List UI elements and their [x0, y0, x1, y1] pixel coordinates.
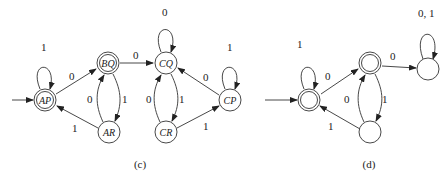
edge-cq-cr: [171, 74, 178, 121]
edge-ap-ap: [37, 67, 51, 89]
edge-s4-s4: [420, 34, 435, 59]
state-label-cp: CP: [224, 95, 237, 106]
edge-label-cp-cp: 1: [227, 41, 233, 53]
edge-label-ar-ap: 1: [72, 122, 78, 134]
edge-label-bq-cq: 0: [133, 49, 139, 61]
edge-label-cp-cq: 0: [203, 71, 209, 83]
state-d-dead: [417, 58, 439, 80]
edge-label-s1-s2: 0: [325, 70, 331, 82]
edge-ar-bq: [97, 75, 104, 122]
edge-label-s3-s1: 1: [328, 120, 334, 132]
state-cr: CR: [155, 121, 177, 143]
edge-label-s2-s3: 1: [382, 93, 388, 105]
diagram-d: 1 0 0 1 0 1 0, 1: [265, 7, 439, 171]
edge-s1-s1: [301, 67, 315, 89]
edge-label-bq-ar: 1: [122, 93, 128, 105]
state-bq: BQ: [97, 52, 119, 74]
edge-label-s4-s4: 0, 1: [418, 7, 435, 19]
edge-cr-cq: [154, 75, 161, 122]
edge-cq-cq: [158, 30, 173, 53]
edge-label-s2-s4: 0: [390, 50, 396, 62]
state-ap: AP: [34, 89, 56, 111]
edge-label-ap-ap: 1: [41, 41, 47, 53]
automata-figure: 1 0 0 1 0 1 0 1 0 1 0 1: [0, 0, 448, 176]
state-d-initial: [298, 89, 320, 111]
state-label-bq: BQ: [101, 58, 115, 69]
edge-cp-cq: [178, 68, 219, 95]
state-label-cq: CQ: [159, 58, 174, 69]
edge-label-cr-cq: 0: [146, 93, 152, 105]
edge-label-cq-cq: 0: [162, 6, 168, 18]
edge-s2-s4: [382, 66, 416, 68]
edge-ap-bq: [56, 69, 96, 94]
edge-bq-ar: [113, 74, 120, 121]
caption-c: (c): [134, 158, 147, 171]
state-label-cr: CR: [160, 127, 173, 138]
caption-d: (d): [363, 158, 376, 171]
state-ar: AR: [98, 121, 120, 143]
state-label-ap: AP: [38, 95, 51, 106]
edge-s3-s1: [320, 106, 360, 129]
edge-ar-ap: [57, 106, 98, 128]
state-d-accept: [359, 52, 381, 74]
edge-s3-s2: [358, 75, 365, 122]
edge-cp-cp: [222, 67, 237, 89]
edge-s2-s3: [375, 74, 382, 121]
diagram-c: 1 0 0 1 0 1 0 1 0 1 0 1: [12, 6, 241, 171]
state-cp: CP: [219, 89, 241, 111]
edge-label-s1-s1: 1: [297, 38, 303, 50]
edge-cr-cp: [177, 106, 219, 128]
state-cq: CQ: [155, 52, 177, 74]
state-label-ar: AR: [102, 127, 115, 138]
state-d-bottom: [359, 121, 381, 143]
edge-label-cr-cp: 1: [203, 120, 209, 132]
edge-label-cq-cr: 1: [179, 93, 185, 105]
edge-label-s3-s2: 0: [344, 93, 350, 105]
edge-label-ar-bq: 0: [87, 93, 93, 105]
edge-label-ap-bq: 0: [69, 70, 75, 82]
